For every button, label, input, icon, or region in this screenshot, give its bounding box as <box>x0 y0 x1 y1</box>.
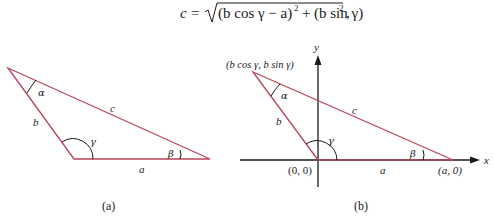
caption-b: (b) <box>354 199 368 213</box>
angle-gamma-label: γ <box>90 136 96 147</box>
formula-exp2: 2 <box>339 3 344 13</box>
x-axis-arrow-icon <box>470 157 480 164</box>
y-axis-label: y <box>313 41 319 53</box>
x-axis-label: x <box>483 154 489 166</box>
vertex-a-label: (a, 0) <box>438 164 462 177</box>
angle-alpha-label: α <box>38 87 45 98</box>
vertex-origin-label: (0, 0) <box>288 164 312 177</box>
side-b-label: b <box>276 115 282 127</box>
angle-beta-arc <box>423 150 424 160</box>
formula: c = (b cos γ − a) 2 + (b sin γ) 2 , <box>180 3 363 22</box>
side-c-label: c <box>352 104 357 116</box>
vertex-apex-label: (b cos γ, b sin γ) <box>226 59 294 71</box>
formula-plus: + <box>302 5 310 21</box>
triangle-a <box>8 68 210 159</box>
angle-beta-label: β <box>167 148 174 159</box>
side-b-label: b <box>33 116 39 128</box>
side-a-label: a <box>380 164 386 176</box>
side-c-label: c <box>110 102 115 114</box>
figure-canvas: c = (b cos γ − a) 2 + (b sin γ) 2 , α γ … <box>0 0 493 224</box>
figure-b: x y α γ β c b a (b cos γ, b sin γ) (0, 0… <box>226 41 489 213</box>
angle-beta-label: β <box>409 148 416 159</box>
y-axis-arrow-icon <box>315 55 322 65</box>
angle-beta-arc <box>180 150 181 159</box>
caption-a: (a) <box>102 199 115 213</box>
angle-gamma-label: γ <box>328 135 334 146</box>
angle-alpha-label: α <box>281 90 288 101</box>
triangle-b <box>253 72 453 160</box>
angle-alpha-arc <box>271 84 280 96</box>
formula-lhs: c <box>180 5 187 21</box>
formula-exp1: 2 <box>294 3 299 13</box>
figure-a: α γ β c b a (a) <box>8 68 210 213</box>
side-a-label: a <box>139 163 145 175</box>
formula-equals: = <box>191 5 199 21</box>
angle-alpha-arc <box>27 80 36 93</box>
formula-trail: , <box>346 5 350 21</box>
formula-term1: (b cos γ − a) <box>218 5 292 22</box>
